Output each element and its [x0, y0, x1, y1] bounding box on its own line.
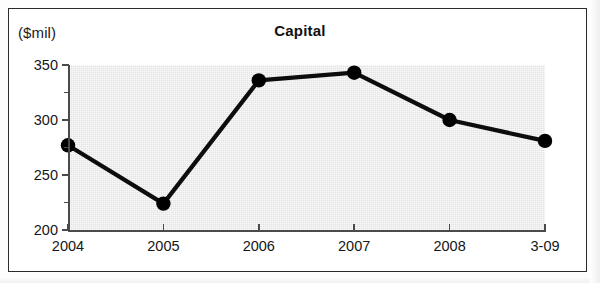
y-tick-label-250: 250: [12, 167, 58, 183]
x-tick-2005: [163, 224, 165, 231]
y-axis-labels: 200250300350: [0, 0, 58, 283]
data-point-2008: [442, 113, 456, 127]
data-point-2006: [252, 73, 266, 87]
data-point-2005: [156, 196, 170, 210]
y-tick-major-300: [62, 119, 69, 121]
data-point-2007: [347, 66, 361, 80]
series-line-capital: [68, 73, 545, 204]
x-tick-label-2004: 2004: [52, 238, 84, 254]
x-tick-2007: [353, 224, 355, 231]
y-tick-minor-225: [64, 202, 69, 204]
x-tick-label-3-09: 3-09: [530, 238, 559, 254]
x-tick-2008: [449, 224, 451, 231]
chart-title: Capital: [0, 22, 600, 39]
x-tick-label-2008: 2008: [433, 238, 465, 254]
x-tick-label-2006: 2006: [243, 238, 275, 254]
y-tick-label-300: 300: [12, 112, 58, 128]
x-tick-3-09: [544, 224, 546, 231]
scan-edge-bottom: [0, 276, 600, 283]
plot-area: [68, 65, 545, 230]
data-point-3-09: [538, 134, 552, 148]
y-tick-label-200: 200: [12, 222, 58, 238]
y-tick-minor-325: [64, 92, 69, 94]
y-tick-minor-275: [64, 147, 69, 149]
y-tick-major-250: [62, 174, 69, 176]
x-axis-line: [68, 230, 546, 232]
x-tick-label-2005: 2005: [147, 238, 179, 254]
x-tick-2006: [258, 224, 260, 231]
x-tick-2004: [67, 224, 69, 231]
figure-root: ($mil) Capital 200250300350 200420052006…: [0, 0, 600, 283]
y-tick-label-350: 350: [12, 57, 58, 73]
scan-edge-right: [590, 0, 600, 283]
x-tick-label-2007: 2007: [338, 238, 370, 254]
series-markers-capital: [61, 66, 552, 211]
y-tick-major-350: [62, 64, 69, 66]
data-series-capital: [68, 65, 545, 230]
